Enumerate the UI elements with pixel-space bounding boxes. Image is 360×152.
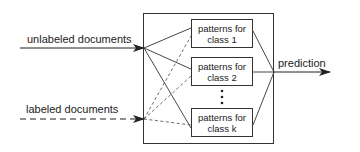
class-1-line2: class 1 bbox=[192, 34, 252, 45]
labeled-documents-label: labeled documents bbox=[26, 104, 118, 115]
diagram-canvas bbox=[0, 0, 360, 152]
class-2-line1: patterns for bbox=[192, 61, 252, 72]
class-k-line1: patterns for bbox=[192, 112, 252, 123]
class-1-box: patterns for class 1 bbox=[191, 19, 253, 48]
class-k-line2: class k bbox=[192, 123, 252, 134]
class-k-box: patterns for class k bbox=[191, 108, 253, 137]
prediction-label: prediction bbox=[278, 58, 326, 69]
unlabeled-connections bbox=[144, 28, 191, 128]
ellipsis-dots bbox=[221, 90, 224, 105]
class-2-box: patterns for class 2 bbox=[191, 57, 253, 86]
unlabeled-documents-label: unlabeled documents bbox=[27, 34, 132, 45]
class-2-line2: class 2 bbox=[192, 72, 252, 83]
class-1-line1: patterns for bbox=[192, 23, 252, 34]
labeled-connections bbox=[144, 36, 191, 125]
output-connections bbox=[253, 31, 274, 125]
